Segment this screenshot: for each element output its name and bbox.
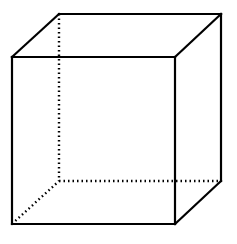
visible-edges — [12, 14, 221, 224]
visible-edge-front-bottom-right-to-back-bottom-right — [175, 181, 221, 224]
cube-diagram — [0, 0, 237, 244]
visible-edge-front-top-left-to-back-top-left — [12, 14, 59, 57]
hidden-edge-front-bottom-left-to-back-bottom-left — [12, 181, 59, 224]
visible-edge-front-top-right-to-back-top-right — [175, 14, 221, 57]
cube-wireframe — [0, 0, 237, 244]
hidden-edges — [12, 14, 221, 224]
